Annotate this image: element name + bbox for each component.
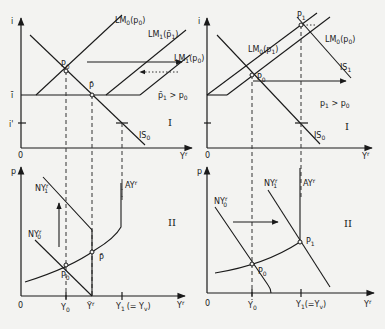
quadrant-label: II [168, 217, 176, 228]
point-p0 [64, 263, 68, 267]
point-p0-label: P0 [257, 73, 266, 83]
i-bar-label: ī [10, 91, 14, 100]
y-axis-label: i [11, 17, 13, 26]
point-pbar [90, 250, 94, 254]
is0-label: IS0 [314, 131, 325, 141]
point-p1 [298, 240, 302, 244]
quadrant-label: I [345, 121, 349, 132]
quadrant-label: I [168, 117, 172, 128]
point-p0 [250, 73, 254, 77]
point-pbar [90, 93, 94, 97]
point-p0-label: P0 [258, 267, 267, 277]
y-axis-label: p [197, 167, 202, 176]
tick-ybar-label: Ȳr [86, 300, 95, 311]
islm-diagram: i 0 Yr ī i' P0 P̄ LM0(p0) LM1(p̄1) LM1(p… [0, 0, 385, 329]
i-prime-label: i' [9, 120, 13, 129]
origin-label: 0 [205, 299, 210, 308]
quadrant-label: II [344, 218, 352, 229]
origin-label: 0 [18, 151, 23, 160]
ay-label: AYr [303, 177, 316, 188]
origin-label: 0 [205, 151, 210, 160]
y-axis-label: p [11, 167, 16, 176]
lm0-p0-label: LM0(p0) [325, 35, 355, 45]
lm0-p0-curve [36, 15, 122, 95]
point-pbar-label: P̄ [89, 81, 94, 91]
x-axis-label: Yr [176, 299, 185, 310]
ny1-label: NYr1 [35, 182, 49, 194]
ny0-label: NYr0 [214, 195, 228, 208]
lm0-p1-label: LM0(p1) [248, 45, 278, 55]
tick-y1-label: Y1(=Yv) [295, 300, 326, 310]
tick-y1-label: Y1(= Yv) [115, 302, 151, 312]
ny1-label: NYr1 [264, 177, 278, 189]
x-axis-label: Yr [361, 150, 370, 161]
condition-label: p̄1 > p0 [158, 91, 188, 101]
lm0-p0-label: LM0(p0) [115, 16, 145, 26]
panel-top-left: i 0 Yr ī i' P0 P̄ LM0(p0) LM1(p̄1) LM1(p… [9, 15, 204, 300]
is0-label: IS0 [139, 131, 150, 141]
tick-y0-label: Y0 [247, 301, 257, 311]
x-axis-label: Yr [179, 150, 188, 161]
panel-bottom-right: p 0 Yr P0 P1 NYr1 NYr0 AYr II Y0 Y1(=Yv) [197, 167, 374, 311]
tick-y0-label: Y0 [60, 303, 70, 313]
ay-label: AYr [125, 179, 138, 190]
point-p0 [250, 262, 254, 266]
ny1-curve [268, 190, 330, 287]
panel-bottom-left: p 0 Yr P0 P̄ NYr1 NYr0 AYr II Y0 Ȳr Y1(=… [11, 167, 185, 313]
lm1-p0-label: LM1(p0) [174, 54, 204, 64]
origin-label: 0 [18, 301, 23, 310]
point-p1-label: P1 [297, 11, 306, 21]
point-p1 [299, 23, 303, 27]
is1-label: IS1 [340, 63, 351, 73]
y-axis-label: i [198, 17, 200, 26]
point-p1-label: P1 [306, 237, 315, 247]
lm1-pbar1-label: LM1(p̄1) [148, 30, 178, 40]
lm0-p0-curve [227, 17, 330, 95]
ny0-label: NYr0 [28, 228, 42, 240]
is0-curve [30, 35, 145, 145]
condition-label: p1 > p0 [320, 99, 350, 109]
panel-top-right: i 0 Yr P0 P1 LM0(p1) LM0(p0) IS1 IS0 p1 … [198, 11, 372, 300]
point-pbar-label: P̄ [99, 253, 104, 263]
x-axis-label: Yr [363, 298, 372, 309]
point-p0-label: P0 [61, 60, 70, 70]
ny0-curve [215, 207, 271, 293]
